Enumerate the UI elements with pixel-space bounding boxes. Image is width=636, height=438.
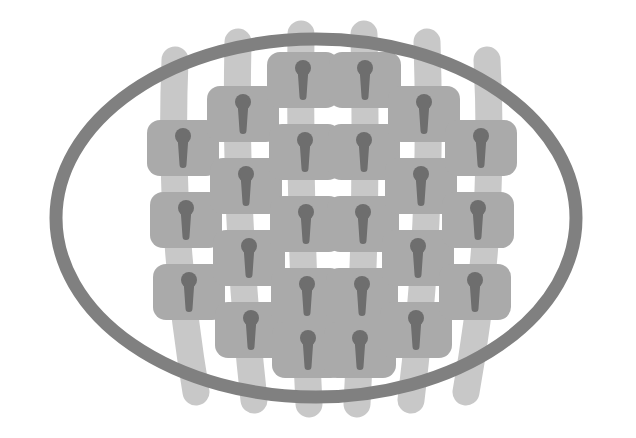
implant-column-6-plate-3 [439, 264, 511, 320]
implant-array-diagram: Implant Array Within Elliptical Frame Gr… [0, 0, 636, 438]
implant-column-6-plate-1 [445, 120, 517, 176]
implant-column-6-plate-2 [442, 192, 514, 248]
figure-root: Implant Array Within Elliptical Frame Gr… [0, 0, 636, 438]
implant-column-3-plate-1 [267, 52, 339, 108]
